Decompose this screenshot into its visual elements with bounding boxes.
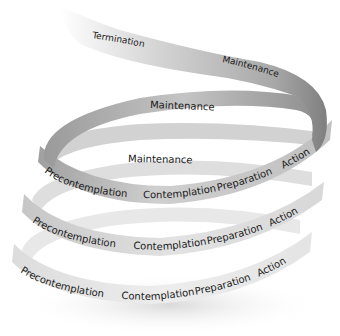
- label-maintenance-2: Maintenance: [128, 153, 193, 165]
- svg-text:Maintenance: Maintenance: [128, 153, 193, 165]
- stages-of-change-spiral: Precontemplation Contemplation Preparati…: [0, 0, 340, 336]
